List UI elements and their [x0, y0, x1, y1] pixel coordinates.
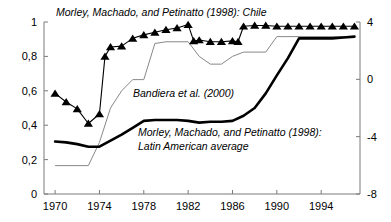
x-tick-label: 1974	[87, 200, 111, 212]
annotation-chile-label: Morley, Machado, and Petinatto (1998): C…	[56, 6, 267, 18]
right-tick-label: -4	[367, 131, 377, 143]
left-tick-label: 0,4	[22, 119, 37, 131]
left-tick-label: 0	[31, 188, 37, 200]
chart-container: 00,20,40,60,81 -8-404 197019741978198219…	[0, 0, 391, 222]
chart-background	[0, 0, 391, 222]
left-tick-label: 1	[31, 16, 37, 28]
x-tick-label: 1970	[43, 200, 67, 212]
right-tick-label: 0	[367, 73, 373, 85]
left-tick-label: 0,6	[22, 85, 37, 97]
annotation-bandiera-label: Bandiera et al. (2000)	[133, 87, 234, 99]
left-tick-label: 0,2	[22, 154, 37, 166]
left-tick-label: 0,8	[22, 50, 37, 62]
x-tick-label: 1978	[132, 200, 156, 212]
annotation-latam-label-line1: Morley, Machado, and Petinatto (1998):	[138, 126, 322, 138]
right-tick-label: 4	[367, 16, 373, 28]
x-tick-label: 1990	[265, 200, 289, 212]
x-tick-label: 1986	[220, 200, 244, 212]
x-tick-label: 1994	[309, 200, 333, 212]
annotation-latam-label-line2: Latin American average	[138, 140, 249, 152]
right-tick-label: -8	[367, 188, 377, 200]
x-tick-label: 1982	[176, 200, 200, 212]
chart-plot-area: 00,20,40,60,81 -8-404 197019741978198219…	[0, 0, 391, 222]
